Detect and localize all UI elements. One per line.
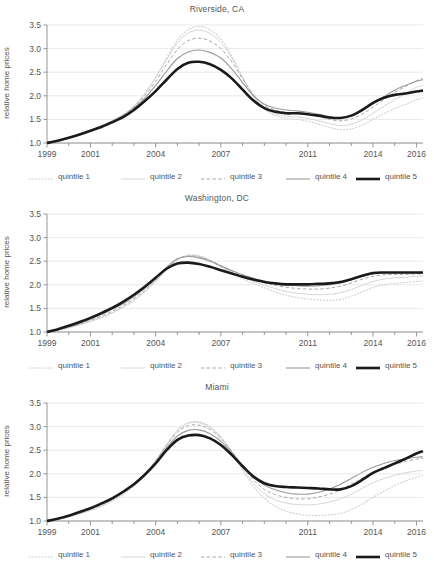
legend-label-quintile-4: quintile 4	[315, 550, 347, 559]
legend-swatch-quintile-3	[200, 363, 226, 373]
figure-home-price-quintiles: Riverside, CA relative home prices 1.01.…	[0, 0, 434, 569]
svg-text:1.0: 1.0	[29, 138, 41, 148]
legend-swatch-quintile-1	[28, 552, 54, 562]
svg-text:1999: 1999	[38, 149, 57, 159]
legend-swatch-quintile-1	[28, 363, 54, 373]
svg-text:1.5: 1.5	[29, 303, 41, 313]
svg-text:2004: 2004	[146, 527, 165, 537]
legend-swatch-quintile-2	[120, 363, 146, 373]
svg-text:2.0: 2.0	[29, 280, 41, 290]
plot-area-riverside: 1.01.52.02.53.03.51999200120042007201120…	[0, 0, 434, 189]
svg-text:2016: 2016	[407, 527, 426, 537]
legend-label-quintile-4: quintile 4	[315, 172, 347, 181]
svg-text:3.0: 3.0	[29, 44, 41, 54]
legend-swatch-quintile-4	[285, 552, 311, 562]
legend-swatch-quintile-4	[285, 363, 311, 373]
svg-text:3.5: 3.5	[29, 20, 41, 30]
legend-label-quintile-3: quintile 3	[230, 172, 262, 181]
legend-swatch-quintile-3	[200, 174, 226, 184]
svg-text:2001: 2001	[81, 338, 100, 348]
legend-swatch-quintile-5	[355, 174, 381, 184]
legend-label-quintile-5: quintile 5	[385, 550, 417, 559]
svg-text:2.5: 2.5	[29, 256, 41, 266]
svg-text:2011: 2011	[299, 149, 318, 159]
legend-swatch-quintile-5	[355, 363, 381, 373]
svg-text:2001: 2001	[81, 149, 100, 159]
legend-label-quintile-1: quintile 1	[58, 550, 90, 559]
panel-riverside: Riverside, CA relative home prices 1.01.…	[0, 0, 434, 189]
legend-label-quintile-1: quintile 1	[58, 172, 90, 181]
legend-label-quintile-2: quintile 2	[150, 172, 182, 181]
svg-text:2011: 2011	[299, 527, 318, 537]
legend-washington: quintile 1quintile 2quintile 3quintile 4…	[0, 362, 434, 376]
panel-washington: Washington, DC relative home prices 1.01…	[0, 189, 434, 378]
legend-miami: quintile 1quintile 2quintile 3quintile 4…	[0, 551, 434, 565]
svg-text:2.0: 2.0	[29, 469, 41, 479]
legend-riverside: quintile 1quintile 2quintile 3quintile 4…	[0, 173, 434, 187]
svg-text:2016: 2016	[407, 338, 426, 348]
svg-text:2004: 2004	[146, 338, 165, 348]
svg-text:2016: 2016	[407, 149, 426, 159]
legend-label-quintile-5: quintile 5	[385, 172, 417, 181]
svg-text:2007: 2007	[211, 338, 230, 348]
svg-text:1999: 1999	[38, 527, 57, 537]
svg-text:2001: 2001	[81, 527, 100, 537]
legend-swatch-quintile-4	[285, 174, 311, 184]
legend-swatch-quintile-2	[120, 174, 146, 184]
svg-text:2.5: 2.5	[29, 445, 41, 455]
legend-label-quintile-5: quintile 5	[385, 361, 417, 370]
svg-text:3.0: 3.0	[29, 233, 41, 243]
plot-area-miami: 1.01.52.02.53.03.51999200120042007201120…	[0, 378, 434, 567]
plot-area-washington: 1.01.52.02.53.03.51999200120042007201120…	[0, 189, 434, 378]
svg-text:3.5: 3.5	[29, 209, 41, 219]
legend-label-quintile-2: quintile 2	[150, 361, 182, 370]
svg-text:2014: 2014	[364, 338, 383, 348]
panel-miami: Miami relative home prices 1.01.52.02.53…	[0, 378, 434, 567]
svg-text:2007: 2007	[211, 527, 230, 537]
svg-text:1.5: 1.5	[29, 492, 41, 502]
legend-label-quintile-3: quintile 3	[230, 361, 262, 370]
svg-text:1.0: 1.0	[29, 327, 41, 337]
svg-text:3.5: 3.5	[29, 398, 41, 408]
svg-text:2.5: 2.5	[29, 67, 41, 77]
svg-text:2011: 2011	[299, 338, 318, 348]
legend-label-quintile-1: quintile 1	[58, 361, 90, 370]
svg-text:2014: 2014	[364, 149, 383, 159]
svg-text:2014: 2014	[364, 527, 383, 537]
svg-text:2.0: 2.0	[29, 91, 41, 101]
legend-label-quintile-4: quintile 4	[315, 361, 347, 370]
svg-text:1999: 1999	[38, 338, 57, 348]
svg-text:2004: 2004	[146, 149, 165, 159]
legend-swatch-quintile-5	[355, 552, 381, 562]
svg-text:2007: 2007	[211, 149, 230, 159]
legend-swatch-quintile-2	[120, 552, 146, 562]
legend-swatch-quintile-3	[200, 552, 226, 562]
legend-label-quintile-3: quintile 3	[230, 550, 262, 559]
svg-text:3.0: 3.0	[29, 422, 41, 432]
legend-label-quintile-2: quintile 2	[150, 550, 182, 559]
svg-text:1.0: 1.0	[29, 516, 41, 526]
legend-swatch-quintile-1	[28, 174, 54, 184]
svg-text:1.5: 1.5	[29, 114, 41, 124]
